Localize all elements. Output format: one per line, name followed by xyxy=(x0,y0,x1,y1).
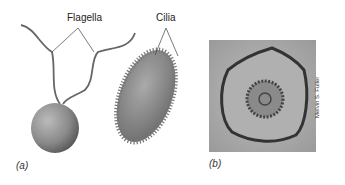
cilia-label: Cilia xyxy=(156,12,175,23)
flagella-label: Flagella xyxy=(67,12,102,23)
panel-b-label: (b) xyxy=(209,158,221,169)
cell-body-icon xyxy=(31,103,79,153)
flagellated-cell-icon xyxy=(21,25,135,153)
photo-credit: Melvin S. Fuller xyxy=(314,77,320,118)
figure-illustration xyxy=(0,0,345,185)
flagella-pointer-lines xyxy=(52,28,94,52)
panel-a-label: (a) xyxy=(16,160,28,171)
figure: Flagella Cilia (a) (b) Melvin S. Fuller xyxy=(0,0,345,185)
micrograph-icon xyxy=(209,40,316,152)
ciliated-cell-icon xyxy=(105,28,187,150)
